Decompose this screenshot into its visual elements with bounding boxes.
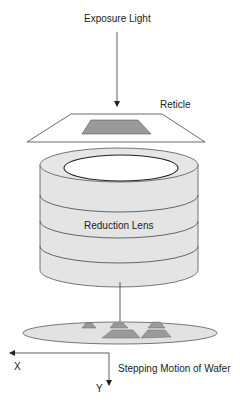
reduction-lens bbox=[40, 148, 198, 287]
lens-aperture bbox=[64, 155, 178, 181]
reduction-lens-label: Reduction Lens bbox=[84, 220, 154, 231]
x-axis-label: X bbox=[14, 361, 21, 372]
exposure-light-label: Exposure Light bbox=[84, 13, 151, 24]
stepping-axes bbox=[10, 353, 109, 385]
photolithography-stepper-diagram: Exposure Light Reticle Reduction Lens St… bbox=[0, 0, 240, 407]
stepping-motion-label: Stepping Motion of Wafer bbox=[118, 363, 230, 374]
reticle bbox=[27, 114, 205, 142]
reticle-label: Reticle bbox=[160, 99, 191, 110]
wafer bbox=[23, 322, 217, 344]
y-axis-label: Y bbox=[96, 383, 103, 394]
diagram-canvas bbox=[0, 0, 240, 407]
